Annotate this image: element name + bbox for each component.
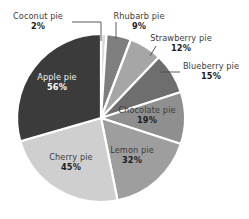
slice-label-chocolate-value: 19% <box>116 116 178 126</box>
slice-label-chocolate: Chocolate pie 19% <box>116 106 178 125</box>
slice-label-apple-value: 56% <box>30 83 84 93</box>
slice-label-cherry: Cherry pie 45% <box>44 153 98 172</box>
slice-label-lemon-value: 32% <box>106 156 158 166</box>
slice-label-blueberry: Blueberry pie 15% <box>178 62 244 81</box>
slice-label-lemon: Lemon pie 32% <box>106 146 158 165</box>
slice-label-strawberry: Strawberry pie 12% <box>146 34 216 53</box>
slice-label-rhubarb: Rhubarb pie 9% <box>110 12 168 31</box>
pie-chart: Coconut pie 2% Rhubarb pie 9% Strawberry… <box>0 0 249 219</box>
slice-label-strawberry-value: 12% <box>146 44 216 54</box>
slice-label-blueberry-value: 15% <box>178 72 244 82</box>
slice-label-coconut-value: 2% <box>6 22 70 32</box>
slice-label-rhubarb-value: 9% <box>110 22 168 32</box>
slice-label-apple: Apple pie 56% <box>30 73 84 92</box>
slice-label-cherry-value: 45% <box>44 163 98 173</box>
slice-label-coconut: Coconut pie 2% <box>6 12 70 31</box>
